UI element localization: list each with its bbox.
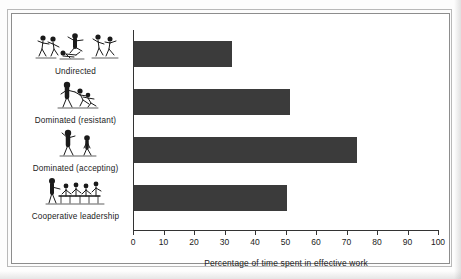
x-axis-tick	[347, 230, 348, 235]
category-axis: Undirected	[19, 23, 132, 230]
category-label: Dominated (resistant)	[35, 116, 116, 125]
x-axis-tick-label: 60	[311, 237, 320, 247]
category-dominated-resistant: Dominated (resistant)	[19, 80, 132, 128]
x-axis-tick	[438, 230, 439, 235]
scanned-page: Undirected	[0, 0, 461, 279]
x-axis-title: Percentage of time spent in effective wo…	[133, 258, 439, 268]
scan-edge-right	[454, 0, 461, 279]
x-axis-tick	[133, 230, 134, 235]
category-label: Undirected	[55, 67, 96, 76]
x-axis-tick-label: 100	[431, 237, 445, 247]
x-axis-tick-label: 30	[220, 237, 229, 247]
undirected-group-icon	[19, 31, 132, 60]
category-dominated-accepting: Dominated (accepting)	[19, 128, 132, 176]
x-axis-tick	[316, 230, 317, 235]
category-label: Dominated (accepting)	[33, 164, 119, 173]
dominated-resistant-icon	[19, 80, 132, 109]
x-axis-ticks: 0102030405060708090100	[133, 230, 439, 258]
x-axis-tick-label: 70	[342, 237, 351, 247]
bar-dominated-accepting	[134, 137, 357, 163]
x-axis-tick-label: 50	[281, 237, 290, 247]
x-axis-tick-label: 0	[131, 237, 136, 247]
bar-undirected	[134, 41, 232, 67]
x-axis-tick	[377, 230, 378, 235]
category-label: Cooperative leadership	[32, 212, 120, 221]
bar-cooperative-leadership	[134, 185, 287, 211]
x-axis-tick-label: 40	[250, 237, 259, 247]
plot-area: 0102030405060708090100 Percentage of tim…	[133, 30, 439, 230]
dominated-accepting-icon	[19, 128, 132, 157]
bar-dominated-resistant	[134, 89, 290, 115]
category-undirected: Undirected	[19, 31, 132, 79]
x-axis-tick	[194, 230, 195, 235]
x-axis-tick	[255, 230, 256, 235]
x-axis-tick-label: 80	[372, 237, 381, 247]
x-axis-tick	[408, 230, 409, 235]
cooperative-leadership-icon	[19, 176, 132, 205]
x-axis-tick-label: 90	[403, 237, 412, 247]
x-axis-tick	[286, 230, 287, 235]
category-cooperative-leadership: Cooperative leadership	[19, 176, 132, 224]
x-axis-tick	[164, 230, 165, 235]
bar-chart: Undirected	[11, 13, 448, 262]
x-axis-tick	[225, 230, 226, 235]
scan-edge-bottom	[0, 271, 461, 279]
x-axis-tick-label: 20	[189, 237, 198, 247]
x-axis-tick-label: 10	[159, 237, 168, 247]
